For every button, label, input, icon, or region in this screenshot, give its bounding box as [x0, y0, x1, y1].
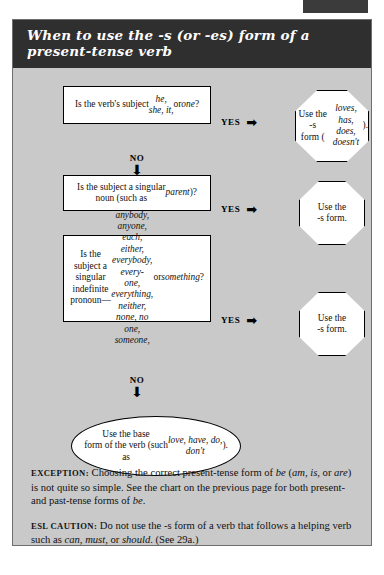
chart-header: When to use the -s (or -es) form of a pr… [13, 20, 371, 68]
chart-panel: When to use the -s (or -es) form of a pr… [12, 19, 372, 546]
yes-connector-1: YES ➡ [221, 117, 258, 127]
footer-notes: EXCEPTION: Choosing the correct present-… [31, 466, 355, 558]
yes-label-1: YES [221, 117, 240, 127]
no-connector-1: NO ⬇ [107, 153, 167, 177]
flowchart-body: Is the verb's subject he,she, it, or one… [13, 68, 371, 453]
result-octagon-1: Use the -sform (loves,has, does,doesn't)… [295, 90, 369, 162]
exception-note-label: EXCEPTION: [31, 468, 89, 478]
result-octagon-3: Use the-s form. [299, 292, 365, 356]
no-connector-3: NO ⬇ [107, 375, 167, 399]
arrow-right-icon-3: ➡ [246, 316, 258, 325]
arrow-down-icon-3: ⬇ [107, 386, 167, 399]
page-edge-marker [303, 0, 368, 13]
chart-title-line-1: When to use the -s (or -es) form of a [27, 27, 357, 43]
exception-note: EXCEPTION: Choosing the correct present-… [31, 466, 355, 508]
result-octagon-2: Use the-s form. [299, 181, 365, 245]
arrow-right-icon-2: ➡ [246, 205, 258, 214]
esl-caution-note: ESL CAUTION: Do not use the -s form of a… [31, 519, 355, 547]
esl-caution-note-label: ESL CAUTION: [31, 521, 97, 531]
arrow-right-icon-1: ➡ [246, 118, 258, 127]
yes-connector-3: YES ➡ [221, 315, 258, 325]
question-box-1: Is the verb's subject he,she, it, or one… [63, 86, 211, 124]
question-box-3: Is the subject a singularindefinite pron… [63, 235, 211, 322]
yes-label-3: YES [221, 315, 240, 325]
question-box-2: Is the subject a singularnoun (such as p… [63, 175, 211, 211]
chart-title-line-2: present-tense verb [27, 43, 357, 59]
yes-connector-2: YES ➡ [221, 204, 258, 214]
yes-label-2: YES [221, 204, 240, 214]
